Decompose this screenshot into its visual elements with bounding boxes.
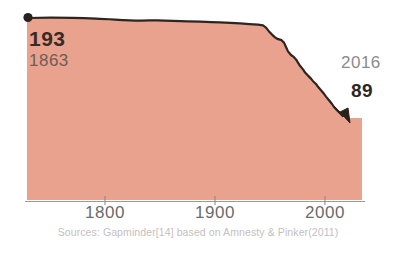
start-point-marker [23, 13, 32, 22]
x-tick-label-2000: 2000 [305, 203, 345, 223]
chart-container: 193 1863 2016 89 1800 1900 2000 Sources:… [0, 0, 396, 258]
x-tick-label-1900: 1900 [195, 203, 235, 223]
area-fill [27, 18, 356, 200]
start-year-label: 1863 [29, 52, 69, 69]
area-right-edge [344, 118, 362, 200]
end-value-label: 89 [351, 81, 373, 100]
source-note: Sources: Gapminder[14] based on Amnesty … [0, 226, 396, 238]
end-year-label: 2016 [341, 54, 381, 71]
start-value-label: 193 [29, 28, 66, 49]
x-tick-label-1800: 1800 [85, 203, 125, 223]
